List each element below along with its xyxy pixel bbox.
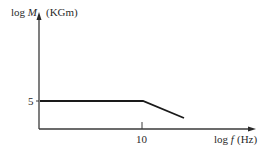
spectrum-diagram: log M (KGm) 5 10 log f (Hz) bbox=[0, 0, 266, 155]
y-axis-arrow-icon bbox=[37, 12, 42, 20]
y-axis-unit: (KGm) bbox=[46, 6, 78, 19]
y-axis-label: log M bbox=[11, 6, 38, 18]
x-tick-label: 10 bbox=[136, 133, 148, 145]
x-axis-arrow-icon bbox=[248, 127, 256, 132]
y-tick-label: 5 bbox=[28, 95, 34, 107]
x-axis-unit: (Hz) bbox=[237, 133, 257, 146]
x-axis-label: log f bbox=[214, 133, 236, 145]
curve-line bbox=[40, 101, 184, 118]
